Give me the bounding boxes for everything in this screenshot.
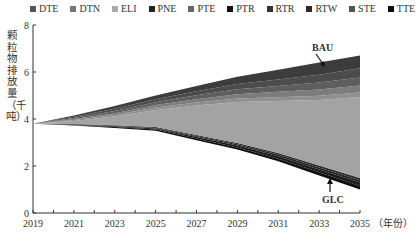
x-tick-label: 2025 bbox=[146, 218, 166, 229]
bau-label: BAU bbox=[312, 42, 333, 53]
glc-label: GLC bbox=[322, 194, 344, 205]
y-tick-label: 6 bbox=[24, 67, 29, 78]
x-tick-label: 2019 bbox=[23, 218, 43, 229]
y-tick-label: 8 bbox=[24, 20, 29, 31]
x-tick-label: 2031 bbox=[268, 218, 288, 229]
y-tick-label: 2 bbox=[24, 161, 29, 172]
x-axis-unit: （年份） bbox=[373, 217, 407, 229]
x-tick-label: 2035 bbox=[350, 218, 370, 229]
x-tick-label: 2021 bbox=[64, 218, 84, 229]
y-tick-label: 4 bbox=[24, 114, 29, 125]
x-tick-label: 2027 bbox=[187, 218, 207, 229]
bau-arrow bbox=[316, 54, 323, 64]
y-tick-label: 0 bbox=[24, 208, 29, 219]
x-tick-label: 2029 bbox=[227, 218, 247, 229]
x-tick-label: 2023 bbox=[105, 218, 125, 229]
x-tick-label: 2033 bbox=[309, 218, 329, 229]
